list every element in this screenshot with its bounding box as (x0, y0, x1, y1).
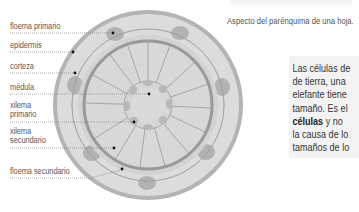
text-line-2: de tierra, una (293, 76, 346, 87)
label-xilema-secundario: xilema secundario (10, 127, 61, 145)
text-line-7: tamaños de lo (293, 142, 350, 153)
label-xilema-primario: xilema primario (10, 101, 54, 119)
figure-caption: Aspecto del parénquima de una hoja. (227, 16, 354, 26)
label-epidermis: epidermis (10, 41, 42, 50)
text-line-5-rest: y no (323, 116, 343, 127)
label-corteza: corteza (10, 62, 34, 71)
diagram-labels: floema primario epidermis corteza médula… (0, 0, 120, 212)
info-textbox: Las células de de tierra, una elefante t… (289, 56, 359, 158)
text-line-6: la causa de lo (293, 129, 349, 140)
text-line-1: Las células de (293, 63, 351, 74)
label-medula: médula (10, 83, 34, 92)
label-floema-primario: floema primario (10, 22, 60, 31)
text-line-3: elefante tiene (293, 89, 347, 100)
label-floema-secundario: floema secundario (10, 167, 70, 176)
text-line-4: tamaño. Es el (293, 103, 348, 114)
text-bold-celulas: células (293, 116, 324, 127)
